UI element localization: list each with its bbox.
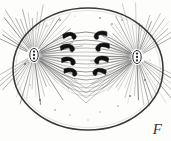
centriole-granule <box>136 59 138 61</box>
centriole-granule <box>33 50 35 52</box>
centriole-granule <box>33 57 35 59</box>
figure-container: F <box>0 0 171 141</box>
centriole-granule <box>136 56 138 58</box>
figure-letter-label: F <box>153 122 162 137</box>
centriole-granule <box>136 52 138 54</box>
mitosis-diagram <box>0 0 171 141</box>
centriole-granule <box>33 54 35 56</box>
